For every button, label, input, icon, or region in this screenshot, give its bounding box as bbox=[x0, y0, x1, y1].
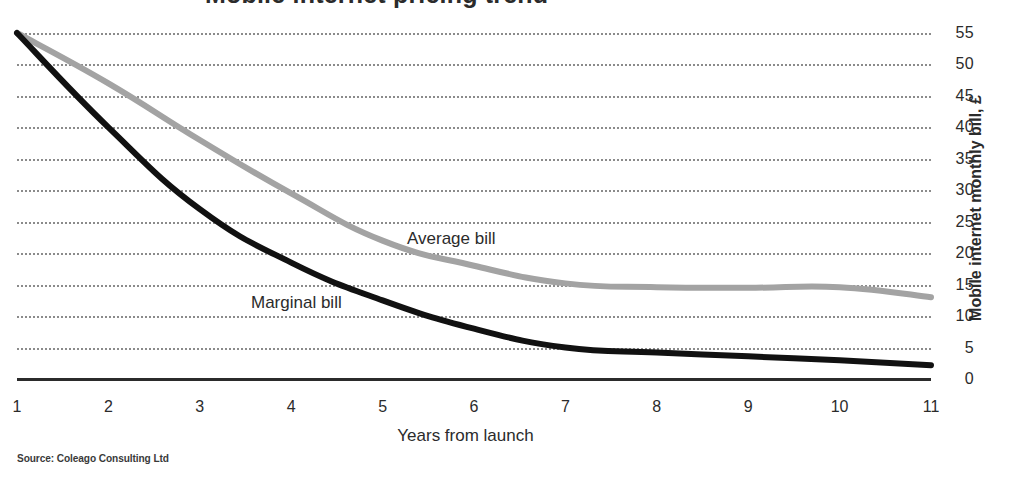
x-tick-label: 5 bbox=[363, 398, 403, 416]
x-tick-label: 1 bbox=[0, 398, 37, 416]
y-tick-label: 55 bbox=[940, 24, 974, 42]
y-tick-label: 0 bbox=[940, 370, 974, 388]
chart-title-text: Mobile internet pricing trend bbox=[205, 0, 548, 9]
x-tick-label: 9 bbox=[728, 398, 768, 416]
y-axis-title: Mobile internet monthly bill, £ bbox=[967, 78, 985, 338]
x-axis-title: Years from launch bbox=[0, 426, 1017, 446]
x-axis-baseline bbox=[17, 378, 931, 381]
source-note: Source: Coleago Consulting Ltd bbox=[17, 452, 169, 464]
x-tick-label: 7 bbox=[545, 398, 585, 416]
x-tick-label: 4 bbox=[271, 398, 311, 416]
x-tick-label: 10 bbox=[820, 398, 860, 416]
plot-area bbox=[17, 33, 931, 379]
y-tick-label: 50 bbox=[940, 55, 974, 73]
series-label-average: Average bill bbox=[407, 229, 496, 249]
line-chart: Mobile internet pricing trend 5550454035… bbox=[0, 0, 1017, 487]
chart-title-cropped: Mobile internet pricing trend bbox=[0, 0, 1017, 14]
y-tick-label: 5 bbox=[940, 339, 974, 357]
series-line-average-bill bbox=[17, 33, 931, 297]
series-label-marginal: Marginal bill bbox=[251, 293, 342, 313]
series-lines bbox=[17, 33, 931, 379]
series-line-marginal-bill bbox=[17, 33, 931, 365]
x-tick-label: 6 bbox=[454, 398, 494, 416]
x-tick-label: 8 bbox=[637, 398, 677, 416]
x-tick-label: 11 bbox=[911, 398, 951, 416]
x-tick-label: 3 bbox=[180, 398, 220, 416]
x-tick-label: 2 bbox=[88, 398, 128, 416]
